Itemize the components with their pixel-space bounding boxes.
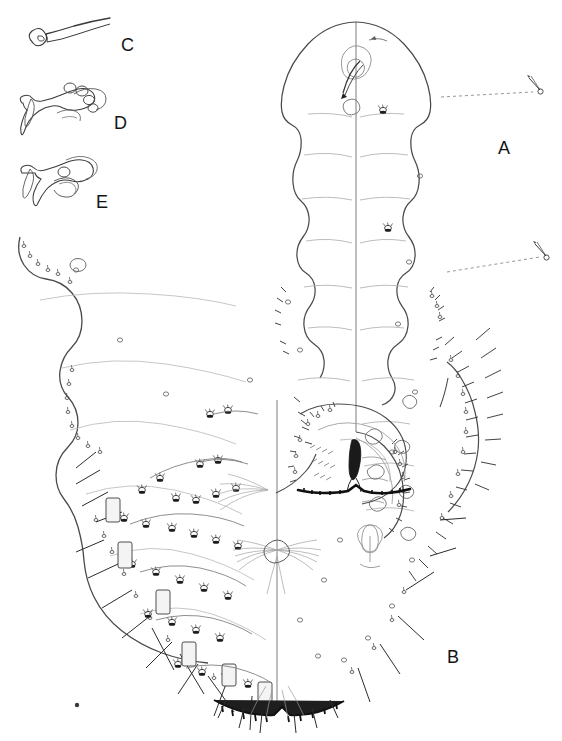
panel-upper-left-striae: [298, 113, 352, 381]
label-b: B: [447, 648, 460, 666]
opisthosoma-right: [356, 429, 410, 538]
mite-line-drawing: [0, 0, 562, 741]
label-c: C: [121, 36, 135, 54]
leader-line-lower: [447, 257, 540, 272]
panel-a-marginal-setae: [409, 287, 503, 581]
panel-a-posterior-setae: [341, 558, 414, 674]
callout-detail-lower-seta: [533, 241, 549, 260]
illustration-plate: C D E A B: [0, 0, 562, 741]
leader-line-upper: [441, 92, 533, 97]
posterior-serrate-margin: [214, 686, 344, 733]
panel-b-left-outline: [19, 237, 208, 663]
gnathosoma-apex: [341, 36, 387, 115]
panel-upper-left-outline: [276, 22, 356, 493]
paired-lobe-structure: [357, 525, 382, 568]
detail-figure-e: [21, 156, 97, 205]
detail-figure-d: [20, 83, 106, 135]
prodorsal-fan: [218, 474, 268, 510]
detail-figure-c: [29, 18, 110, 46]
panel-b-marginal-setae: [22, 241, 216, 680]
callout-detail-upper-seta: [527, 75, 543, 94]
panel-upper-left-pores: [285, 300, 302, 352]
label-a: A: [498, 139, 511, 157]
panel-a-posterior-spines: [358, 518, 466, 702]
label-d: D: [114, 114, 128, 132]
stray-ink-dot: [75, 703, 79, 707]
anal-region: [288, 402, 410, 504]
callout-leaders: [441, 75, 549, 272]
panel-b-connective-lines: [130, 411, 270, 682]
panel-a-setal-bases: [430, 291, 468, 520]
label-e: E: [96, 193, 109, 211]
panel-b-scattered-pores: [70, 259, 343, 659]
